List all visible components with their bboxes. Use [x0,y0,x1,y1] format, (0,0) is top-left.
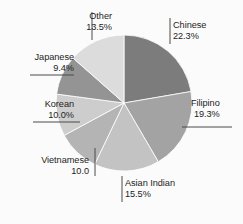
pie-chart: Chinese 22.3% Filipino 19.3% Asian India… [0,0,243,224]
pie-label-korean-name: Korean [12,99,74,110]
pie-label-vietnamese: Vietnamese 10.0 [13,155,89,177]
pie-label-filipino-name: Filipino [191,98,220,109]
pie-label-japanese-value: 9.4% [8,63,74,74]
pie-label-other-value: 13.5% [61,22,112,33]
pie-label-other: Other 13.5% [61,11,112,33]
pie-label-filipino-value: 19.3% [191,109,220,120]
pie-label-korean-value: 10.0% [12,110,74,121]
pie-label-asian-indian-name: Asian Indian [125,178,175,189]
pie-label-chinese-name: Chinese [173,20,206,31]
pie-slice-chinese [124,35,191,103]
pie-label-vietnamese-value: 10.0 [13,166,89,177]
pie-label-japanese: Japanese 9.4% [8,52,74,74]
pie-label-asian-indian-value: 15.5% [125,189,175,200]
pie-label-vietnamese-name: Vietnamese [13,155,89,166]
pie-label-other-name: Other [61,11,112,22]
pie-label-korean: Korean 10.0% [12,99,74,121]
pie-label-japanese-name: Japanese [8,52,74,63]
pie-label-filipino: Filipino 19.3% [191,98,220,120]
pie-label-chinese: Chinese 22.3% [173,20,206,42]
pie-label-chinese-value: 22.3% [173,31,206,42]
pie-slices-group [56,35,192,171]
pie-label-asian-indian: Asian Indian 15.5% [125,178,175,200]
